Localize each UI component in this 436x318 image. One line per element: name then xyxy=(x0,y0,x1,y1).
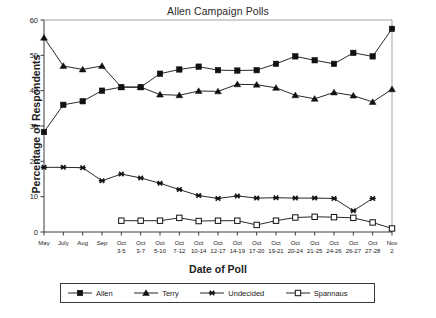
y-tick-label: 50 xyxy=(30,51,38,60)
x-tick-label: Oct xyxy=(368,240,378,246)
marker-open-square xyxy=(293,215,298,220)
marker-filled-triangle xyxy=(389,86,396,92)
x-tick-label-sub: 12-17 xyxy=(210,248,226,254)
legend-entry-undecided: Undecided xyxy=(199,287,284,299)
chart-legend: AllenTerryUndecidedSpannaus xyxy=(60,283,375,303)
series-undecided xyxy=(41,165,376,213)
x-tick-label: May xyxy=(38,240,49,246)
x-tick-label-sub: 3-5 xyxy=(117,248,126,254)
legend-marker-filled-triangle-icon xyxy=(133,287,159,299)
x-tick-label: Oct xyxy=(194,240,204,246)
x-tick-label: Oct xyxy=(329,240,339,246)
y-tick-label: 40 xyxy=(30,86,38,95)
plot-area: 0102030405060MayJulyAugSepOct3-5Oct3-7Oc… xyxy=(0,0,436,318)
x-tick-label-sub: 21-25 xyxy=(307,248,323,254)
x-tick-label: Oct xyxy=(310,240,320,246)
marker-filled-triangle xyxy=(331,89,338,95)
x-tick-label: Nov xyxy=(387,240,398,246)
x-tick-label: Aug xyxy=(77,240,88,246)
marker-open-square xyxy=(312,214,317,219)
x-tick-label-sub: 14-19 xyxy=(230,248,246,254)
marker-filled-square xyxy=(389,26,394,31)
marker-filled-square xyxy=(215,67,220,72)
x-tick-label: Oct xyxy=(252,240,262,246)
legend-entry-terry: Terry xyxy=(133,287,199,299)
legend-marker-cross-star-icon xyxy=(199,287,225,299)
x-tick-label-sub: 24-26 xyxy=(326,248,342,254)
marker-filled-square xyxy=(157,71,162,76)
x-tick-label: Oct xyxy=(136,240,146,246)
marker-filled-square xyxy=(351,50,356,55)
marker-filled-square xyxy=(293,54,298,59)
x-tick-label-sub: 19-21 xyxy=(268,248,284,254)
y-tick-label: 0 xyxy=(34,228,38,237)
legend-label: Allen xyxy=(96,289,113,298)
series-line xyxy=(44,29,392,132)
marker-filled-square xyxy=(61,102,66,107)
legend-entry-allen: Allen xyxy=(67,287,133,299)
marker-filled-square xyxy=(41,129,46,134)
x-tick-label: Oct xyxy=(271,240,281,246)
x-tick-label: Oct xyxy=(233,240,243,246)
x-tick-label: Oct xyxy=(213,240,223,246)
legend-label: Undecided xyxy=(228,289,264,298)
marker-filled-triangle xyxy=(60,63,67,69)
x-tick-label: Sep xyxy=(97,240,108,246)
marker-open-square xyxy=(157,218,162,223)
y-tick-label: 60 xyxy=(30,16,38,25)
x-tick-label: Oct xyxy=(291,240,301,246)
y-tick-label: 10 xyxy=(30,192,38,201)
marker-open-square xyxy=(235,218,240,223)
marker-open-square xyxy=(196,218,201,223)
marker-filled-square xyxy=(99,88,104,93)
x-tick-label-sub: 27-28 xyxy=(365,248,381,254)
marker-filled-square xyxy=(177,67,182,72)
legend-row: AllenTerryUndecidedSpannaus xyxy=(61,284,374,302)
x-tick-label: Oct xyxy=(117,240,127,246)
marker-open-square xyxy=(177,215,182,220)
x-tick-label-sub: 20-24 xyxy=(288,248,304,254)
x-tick-label-sub: 2 xyxy=(390,248,394,254)
marker-filled-square xyxy=(254,67,259,72)
legend-marker-open-square-icon xyxy=(285,287,311,299)
marker-open-square xyxy=(273,218,278,223)
marker-filled-square xyxy=(235,68,240,73)
marker-open-square xyxy=(389,226,394,231)
series-allen xyxy=(41,26,394,135)
series-spannaus xyxy=(119,214,395,231)
marker-open-square xyxy=(370,220,375,225)
marker-filled-triangle xyxy=(41,34,48,40)
x-tick-label: Oct xyxy=(155,240,165,246)
marker-open-square xyxy=(351,215,356,220)
marker-filled-square xyxy=(77,290,82,295)
chart-figure: Allen Campaign Polls Percentage of Respo… xyxy=(0,0,436,318)
y-tick-label: 20 xyxy=(30,157,38,166)
x-tick-label: Oct xyxy=(175,240,185,246)
marker-open-square xyxy=(119,218,124,223)
legend-marker-filled-square-icon xyxy=(67,287,93,299)
legend-label: Terry xyxy=(162,289,179,298)
x-tick-label-sub: 26-27 xyxy=(346,248,362,254)
marker-open-square xyxy=(295,290,300,295)
x-tick-label: Oct xyxy=(349,240,359,246)
marker-filled-square xyxy=(196,64,201,69)
x-tick-label-sub: 17-20 xyxy=(249,248,265,254)
marker-filled-triangle xyxy=(292,92,299,98)
marker-open-square xyxy=(254,222,259,227)
x-tick-label-sub: 5-10 xyxy=(154,248,167,254)
x-tick-label-sub: 7-12 xyxy=(173,248,186,254)
x-tick-label-sub: 3-7 xyxy=(136,248,145,254)
series-line xyxy=(44,167,373,210)
legend-label: Spannaus xyxy=(314,289,348,298)
x-tick-label-sub: 10-14 xyxy=(191,248,207,254)
marker-filled-square xyxy=(80,99,85,104)
marker-filled-triangle xyxy=(99,63,106,69)
x-tick-label: July xyxy=(58,240,69,246)
marker-filled-square xyxy=(331,61,336,66)
marker-open-square xyxy=(215,218,220,223)
y-tick-label: 30 xyxy=(30,122,38,131)
marker-open-square xyxy=(138,218,143,223)
marker-filled-square xyxy=(370,54,375,59)
marker-open-square xyxy=(331,214,336,219)
marker-filled-square xyxy=(312,58,317,63)
